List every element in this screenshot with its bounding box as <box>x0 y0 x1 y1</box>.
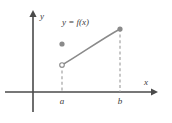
y-axis-label: y <box>39 11 44 21</box>
tick-label-a: a <box>60 96 65 106</box>
isolated-point-filled-marker <box>59 41 64 46</box>
x-axis-label: x <box>143 77 148 87</box>
x-axis-arrow-icon <box>151 88 158 95</box>
right-endpoint-filled-marker <box>117 26 122 31</box>
y-axis-arrow-icon <box>29 10 36 17</box>
function-curve <box>62 29 120 65</box>
calculus-figure: y x y = f(x) a b <box>0 0 172 123</box>
function-label: y = f(x) <box>61 17 89 27</box>
figure-container: y x y = f(x) a b <box>0 0 172 123</box>
tick-label-b: b <box>118 96 123 106</box>
left-endpoint-open-marker <box>60 63 65 68</box>
